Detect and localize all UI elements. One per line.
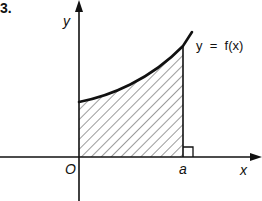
y-axis-label: y xyxy=(63,14,70,28)
shaded-region xyxy=(79,46,183,157)
x-axis-label: x xyxy=(240,163,247,177)
origin-label: O xyxy=(65,162,76,176)
y-axis-arrow-icon xyxy=(75,0,83,12)
problem-number: 3. xyxy=(0,1,12,15)
x-axis-arrow-icon xyxy=(250,153,262,161)
area-under-curve-diagram xyxy=(0,0,262,201)
right-angle-marker xyxy=(183,147,193,157)
a-label: a xyxy=(179,162,187,176)
curve-label: y = f(x) xyxy=(196,39,243,52)
